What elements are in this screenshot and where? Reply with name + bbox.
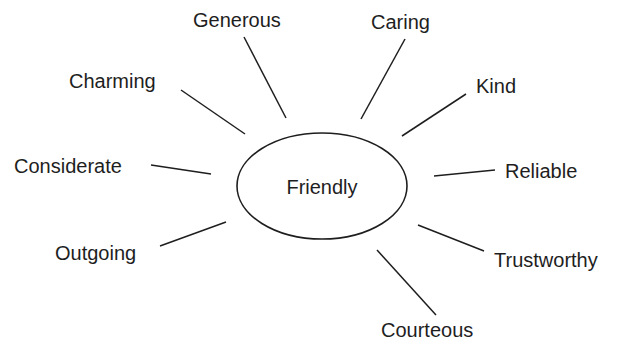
node-label-outgoing: Outgoing: [55, 243, 136, 263]
edge-courteous: [377, 250, 436, 315]
edge-caring: [361, 39, 405, 119]
edge-charming: [181, 90, 245, 134]
node-label-courteous: Courteous: [381, 320, 473, 340]
node-label-trustworthy: Trustworthy: [494, 250, 598, 270]
node-label-generous: Generous: [193, 10, 281, 30]
edge-reliable: [434, 170, 495, 176]
edge-generous: [244, 37, 286, 118]
node-label-charming: Charming: [69, 71, 156, 91]
node-label-kind: Kind: [476, 76, 516, 96]
edge-considerate: [151, 165, 211, 174]
center-node-label: Friendly: [286, 177, 357, 197]
edge-trustworthy: [418, 225, 484, 251]
node-label-reliable: Reliable: [505, 161, 577, 181]
edge-kind: [402, 94, 466, 136]
node-label-considerate: Considerate: [14, 156, 122, 176]
edge-outgoing: [160, 222, 226, 246]
mind-map-diagram: Friendly Generous Caring Kind Reliable T…: [0, 0, 626, 353]
node-label-caring: Caring: [371, 12, 430, 32]
